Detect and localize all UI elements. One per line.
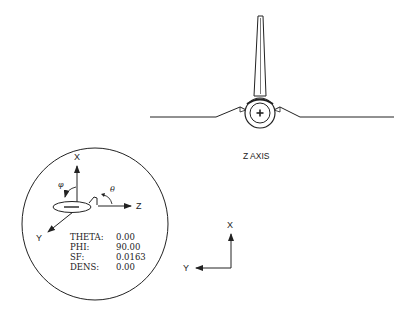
indicator-circle — [22, 148, 168, 300]
screen-axis-label-y: Y — [183, 264, 189, 273]
axis-label-y: Y — [36, 234, 42, 243]
axis-label-x: X — [74, 153, 80, 162]
orientation-indicator — [22, 148, 168, 300]
aircraft-tail — [89, 197, 97, 205]
param-phi-label: PHI: — [70, 243, 89, 252]
right-wing — [274, 107, 394, 117]
param-sf-label: SF: — [70, 253, 84, 262]
vertical-fin — [254, 16, 266, 96]
z-axis-caption: Z AXIS — [243, 152, 269, 161]
phi-arc — [65, 187, 76, 197]
param-dens-label: DENS: — [70, 263, 99, 272]
axis-label-z: Z — [136, 202, 142, 211]
aircraft-front-view — [150, 16, 394, 128]
param-dens-value: 0.00 — [116, 263, 135, 272]
y-axis-arrow — [48, 212, 73, 232]
diagram-canvas — [0, 0, 411, 321]
left-wing — [150, 107, 246, 117]
param-theta-value: 0.00 — [116, 233, 135, 242]
param-sf-value: 0.0163 — [116, 253, 146, 262]
screen-axis-label-x: X — [227, 221, 233, 230]
screen-axes — [196, 234, 231, 268]
param-theta-label: THETA: — [70, 233, 104, 242]
param-phi-value: 90.00 — [116, 243, 140, 252]
theta-arc — [103, 195, 112, 204]
theta-symbol: θ — [110, 186, 115, 194]
phi-symbol: φ — [58, 181, 64, 189]
